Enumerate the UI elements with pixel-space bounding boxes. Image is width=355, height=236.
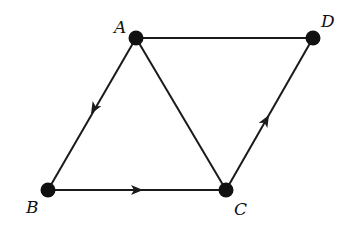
vertex-d [306, 31, 321, 46]
edge-a-b [48, 38, 136, 190]
vertex-c [219, 183, 234, 198]
label-d: D [320, 11, 335, 31]
vertex-a [129, 31, 144, 46]
label-c: C [234, 199, 247, 219]
graph-diagram: A B C D [0, 0, 355, 236]
arrow-c-to-d-icon [259, 113, 274, 128]
vertex-b [41, 183, 56, 198]
label-b: B [25, 197, 39, 217]
edge-a-c [136, 38, 226, 190]
label-a: A [112, 17, 126, 37]
edge-c-d [226, 38, 313, 190]
